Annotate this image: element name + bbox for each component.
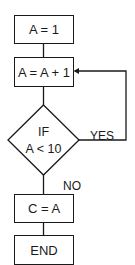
label-no: NO [63,180,81,192]
node-assign-text: C = A [28,201,60,216]
node-init: A = 1 [14,15,74,44]
node-end-text: END [30,243,57,258]
node-assign: C = A [14,194,74,223]
decision-line1: IF [14,124,74,141]
arrowhead-icon [74,68,80,74]
decision-line2: A < 10 [14,141,74,158]
label-yes: YES [90,130,114,142]
node-increment-text: A = A + 1 [18,65,70,80]
node-increment: A = A + 1 [14,57,74,87]
node-init-text: A = 1 [29,22,59,37]
node-decision-text: IF A < 10 [14,124,74,158]
node-end: END [14,235,74,265]
